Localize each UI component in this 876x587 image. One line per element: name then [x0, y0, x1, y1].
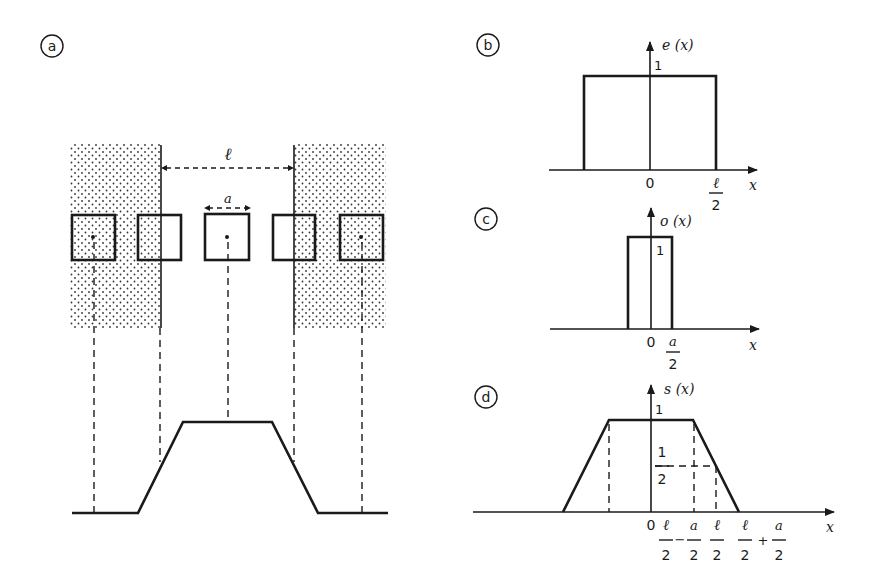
panel-b-x-label: x: [749, 177, 757, 193]
panel-b-badge: b: [477, 34, 499, 56]
panel-c-x-label: x: [749, 337, 757, 353]
panel-b-y-tick: 1: [654, 58, 662, 73]
svg-text:ℓ: ℓ: [742, 516, 748, 534]
svg-text:2: 2: [775, 547, 784, 563]
panel-d-y-tick: 1: [655, 402, 663, 417]
panel-c-y-tick: 1: [656, 243, 664, 258]
panel-b-function-label: e (x): [662, 37, 694, 53]
panel-d-half-den: 2: [658, 471, 667, 487]
panel-d-origin: 0: [647, 517, 656, 533]
panel-a-trapezoid: [72, 422, 388, 513]
panel-c-tick-den: 2: [669, 356, 678, 372]
panel-b-tick-num: ℓ: [713, 174, 719, 192]
panel-c-function-label: o (x): [660, 213, 692, 229]
panel-d-letter: d: [482, 389, 491, 405]
svg-text:ℓ: ℓ: [663, 516, 669, 534]
aperture-label: a: [224, 191, 232, 206]
svg-text:ℓ: ℓ: [714, 516, 720, 534]
svg-text:−: −: [675, 532, 686, 547]
panel-d-badge: d: [475, 386, 497, 408]
period-label: ℓ: [224, 144, 231, 164]
svg-text:2: 2: [741, 547, 750, 563]
panel-a: a ℓ a: [41, 35, 388, 513]
svg-text:a: a: [775, 518, 783, 533]
svg-text:2: 2: [690, 547, 699, 563]
panel-d-tick-l-plus-a: ℓ 2 + a 2: [738, 516, 786, 563]
panel-b-tick-den: 2: [712, 197, 721, 213]
svg-text:2: 2: [662, 547, 671, 563]
panel-a-badge: a: [41, 35, 63, 57]
panel-d-half-num: 1: [658, 444, 667, 460]
svg-text:+: +: [758, 533, 769, 548]
panel-b-letter: b: [484, 37, 493, 53]
panel-d-tick-l-minus-a: ℓ 2 − a 2: [659, 516, 701, 563]
panel-c: c o (x) 1 0 a 2 x: [475, 208, 759, 372]
panel-b: b e (x) 1 0 ℓ 2 x: [477, 34, 757, 213]
panel-c-rect-function: [628, 237, 672, 329]
svg-text:a: a: [690, 518, 698, 533]
panel-c-badge: c: [475, 208, 497, 230]
panel-d-function-label: s (x): [664, 381, 694, 397]
panel-b-origin: 0: [646, 175, 655, 191]
figure: a ℓ a: [0, 0, 876, 587]
svg-text:2: 2: [713, 547, 722, 563]
panel-c-letter: c: [482, 211, 490, 227]
panel-d-x-label: x: [826, 519, 834, 535]
panel-d: d s (x) 1 1 2 0 ℓ 2 − a 2 ℓ 2: [473, 381, 834, 563]
panel-c-tick-num: a: [669, 334, 677, 349]
panel-d-tick-l: ℓ 2: [710, 516, 724, 563]
panel-a-letter: a: [48, 38, 57, 54]
panel-c-origin: 0: [647, 334, 656, 350]
